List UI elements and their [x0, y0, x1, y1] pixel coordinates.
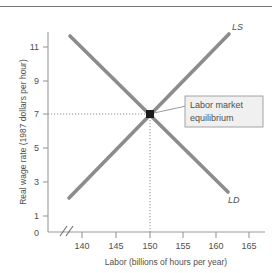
y-axis-ticks	[43, 47, 48, 216]
axis-break-slash-2	[66, 226, 73, 236]
axis-break-slash-1	[60, 226, 67, 236]
y-tick-label-0: 0	[34, 228, 39, 238]
y-tick-label-1: 1	[34, 211, 39, 221]
y-tick-label-11: 11	[30, 42, 39, 52]
y-tick-label-7: 7	[34, 109, 39, 119]
labor-market-equilibrium-figure: 11 9 7 5 3 1 0 140 145 150 155 160 165	[0, 0, 272, 273]
equilibrium-callout-line-1: Labor market	[190, 100, 244, 110]
x-tick-label-150: 150	[142, 241, 157, 251]
labor-demand-curve-label: LD	[228, 195, 240, 205]
y-tick-label-3: 3	[34, 177, 39, 187]
labor-supply-curve-label: LS	[232, 22, 243, 32]
equilibrium-point-marker	[146, 110, 154, 118]
x-tick-label-165: 165	[241, 241, 256, 251]
chart-canvas: 11 9 7 5 3 1 0 140 145 150 155 160 165	[0, 0, 272, 273]
x-axis-title: Labor (billions of hours per year)	[105, 257, 228, 267]
x-tick-label-160: 160	[208, 241, 223, 251]
x-axis-ticks	[82, 232, 249, 238]
y-tick-label-9: 9	[34, 76, 39, 86]
y-tick-label-5: 5	[34, 143, 39, 153]
x-tick-label-140: 140	[74, 241, 89, 251]
y-axis-title: Real wage rate (1987 dollars per hour)	[18, 59, 28, 205]
x-tick-label-155: 155	[175, 241, 190, 251]
x-axis-break-marks	[60, 226, 73, 236]
equilibrium-callout-line-2: equilibrium	[190, 113, 234, 123]
x-tick-label-145: 145	[108, 241, 123, 251]
